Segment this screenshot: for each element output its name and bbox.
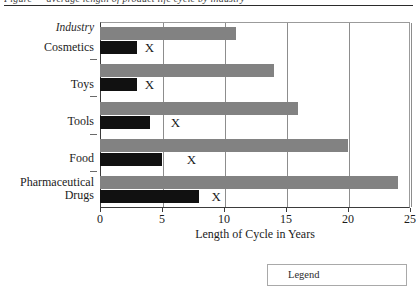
x-axis-tick-label: 15 — [280, 212, 292, 227]
category-label: Toys — [71, 78, 94, 91]
category-label-line: Food — [69, 152, 94, 165]
bars-layer: XXXXX — [100, 22, 410, 208]
x-marker: X — [187, 153, 196, 166]
category-axis-title: Industry — [56, 21, 94, 33]
category-label: Food — [69, 152, 94, 165]
bar — [100, 116, 150, 129]
bar — [100, 190, 199, 203]
bar — [100, 102, 298, 115]
bar — [100, 153, 162, 166]
category-axis-labels: Industry CosmeticsToysToolsFoodPharmaceu… — [0, 22, 97, 208]
category-label: PharmaceuticalDrugs — [20, 176, 94, 202]
x-axis-tick-label: 10 — [218, 212, 230, 227]
bar — [100, 176, 398, 189]
x-axis-tick-label: 0 — [97, 212, 103, 227]
x-axis-tick-label: 25 — [404, 212, 416, 227]
category-label: Cosmetics — [44, 41, 94, 54]
bar — [100, 64, 274, 77]
cut-off-caption: Figure — average length of product life … — [4, 0, 413, 4]
x-marker: X — [145, 41, 154, 54]
bar — [100, 41, 137, 54]
gridline — [411, 23, 412, 207]
category-label-line: Tools — [68, 115, 95, 128]
category-axis-tick — [90, 171, 97, 172]
bar — [100, 78, 137, 91]
category-label-line: Drugs — [20, 189, 94, 202]
category-label-line: Toys — [71, 78, 94, 91]
category-label-line: Cosmetics — [44, 41, 94, 54]
bar — [100, 139, 348, 152]
legend-label: Legend — [288, 269, 320, 280]
category-axis-tick — [90, 134, 97, 135]
x-axis-tick-label: 5 — [159, 212, 165, 227]
legend-box[interactable]: Legend — [267, 264, 407, 286]
x-marker: X — [145, 78, 154, 91]
x-axis-tick-label: 20 — [342, 212, 354, 227]
category-axis-tick — [90, 59, 97, 60]
bar — [100, 27, 236, 40]
x-marker: X — [171, 116, 180, 129]
caption-divider — [4, 5, 413, 6]
category-label: Tools — [68, 115, 95, 128]
x-axis-title: Length of Cycle in Years — [100, 227, 410, 242]
bar-chart: Industry CosmeticsToysToolsFoodPharmaceu… — [0, 8, 417, 282]
category-axis-tick — [90, 96, 97, 97]
x-marker: X — [212, 190, 221, 203]
